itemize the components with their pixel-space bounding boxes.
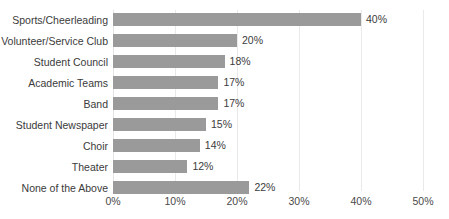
bar xyxy=(113,34,237,47)
category-row: Academic Teams xyxy=(0,73,108,94)
category-label: Choir xyxy=(83,140,108,153)
horizontal-bar-chart: Sports/CheerleadingVolunteer/Service Clu… xyxy=(0,0,449,219)
bar-row: 40% xyxy=(113,10,449,31)
bar-value-label: 20% xyxy=(242,32,263,48)
bar-row: 18% xyxy=(113,52,449,73)
category-row: Student Council xyxy=(0,52,108,73)
bar-row: 17% xyxy=(113,73,449,94)
category-row: Band xyxy=(0,94,108,115)
bar-value-label: 12% xyxy=(192,158,213,174)
x-tick-label: 10% xyxy=(164,193,185,209)
category-label: Band xyxy=(83,98,108,111)
category-row: Choir xyxy=(0,136,108,157)
bar xyxy=(113,55,225,68)
x-tick-label: 40% xyxy=(350,193,371,209)
bar xyxy=(113,97,218,110)
category-row: Volunteer/Service Club xyxy=(0,31,108,52)
category-label: Sports/Cheerleading xyxy=(12,14,108,27)
x-tick-label: 50% xyxy=(412,193,433,209)
bar-value-label: 17% xyxy=(223,95,244,111)
bar-row: 14% xyxy=(113,136,449,157)
bar-series: 40%20%18%17%17%15%14%12%22% xyxy=(113,10,449,191)
category-axis-labels: Sports/CheerleadingVolunteer/Service Clu… xyxy=(0,10,108,191)
bar xyxy=(113,118,206,131)
category-row: Theater xyxy=(0,157,108,178)
bar-value-label: 40% xyxy=(366,11,387,27)
x-tick-label: 30% xyxy=(288,193,309,209)
category-row: Student Newspaper xyxy=(0,115,108,136)
bar-value-label: 17% xyxy=(223,74,244,90)
bar-row: 20% xyxy=(113,31,449,52)
category-label: Student Newspaper xyxy=(16,119,108,132)
bar-row: 15% xyxy=(113,115,449,136)
x-tick-label: 0% xyxy=(105,193,120,209)
x-tick-label: 20% xyxy=(226,193,247,209)
bar xyxy=(113,160,187,173)
bar-row: 17% xyxy=(113,94,449,115)
bar xyxy=(113,76,218,89)
bar-value-label: 14% xyxy=(205,137,226,153)
bar xyxy=(113,139,200,152)
category-label: Academic Teams xyxy=(28,77,108,90)
category-row: Sports/Cheerleading xyxy=(0,10,108,31)
bar-value-label: 15% xyxy=(211,116,232,132)
bar-value-label: 18% xyxy=(230,53,251,69)
bar xyxy=(113,13,361,26)
bar-row: 12% xyxy=(113,157,449,178)
category-label: Student Council xyxy=(34,56,108,69)
category-label: Volunteer/Service Club xyxy=(1,35,108,48)
value-axis: 0%10%20%30%40%50% xyxy=(0,193,449,213)
category-label: Theater xyxy=(72,161,108,174)
